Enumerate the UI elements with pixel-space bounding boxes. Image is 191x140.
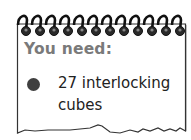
list-item-line-1: 27 interlocking [58,72,170,94]
you-need-heading: You need: [24,40,112,58]
filled-circle-icon [27,78,40,91]
list-item-text: 27 interlocking cubes [58,72,170,116]
list-item-line-2: cubes [58,94,170,116]
notepad-frame-icon [0,0,191,140]
notepad-card: You need: 27 interlocking cubes [0,0,191,140]
